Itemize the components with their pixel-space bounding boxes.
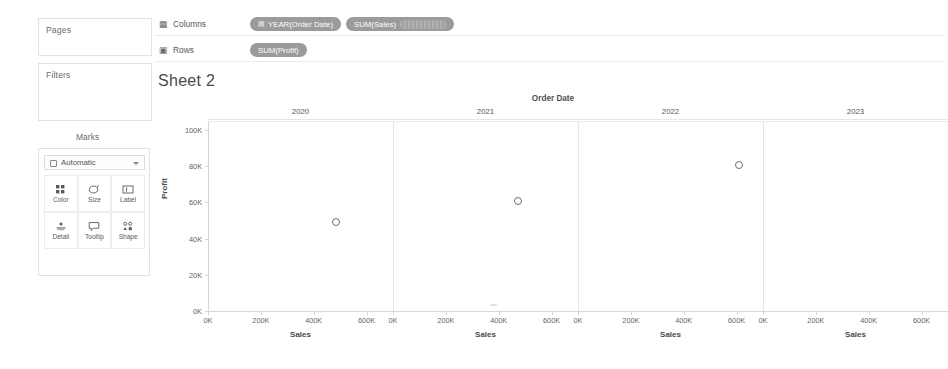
data-point[interactable] xyxy=(332,218,340,226)
sheet-title[interactable]: Sheet 2 xyxy=(158,72,215,90)
tooltip-icon xyxy=(88,220,100,233)
y-tick-label: 100K xyxy=(185,126,202,135)
y-tick-label: 80K xyxy=(189,162,202,171)
columns-pill-row: ▤ YEAR(Order Date) SUM(Sales) xyxy=(250,17,454,31)
pill-sum-profit-label: SUM(Profit) xyxy=(258,46,299,55)
x-tick-mark xyxy=(552,312,553,315)
panel-2020[interactable] xyxy=(209,122,394,311)
x-tick-label: 200K xyxy=(252,316,269,325)
panel-header-2022[interactable]: 2022 xyxy=(578,107,763,120)
chart-panels xyxy=(208,121,948,311)
x-tick-mark xyxy=(261,312,262,315)
rows-pill-row: SUM(Profit) xyxy=(250,43,307,57)
panel-2021[interactable] xyxy=(394,122,579,311)
marks-tooltip-button[interactable]: Tooltip xyxy=(78,212,112,249)
columns-shelf-label: Columns xyxy=(173,19,206,29)
pill-sum-profit[interactable]: SUM(Profit) xyxy=(250,43,307,57)
marks-shape-button[interactable]: Shape xyxy=(111,212,145,249)
columns-icon: ▦ xyxy=(159,20,168,29)
filters-card[interactable]: Filters xyxy=(38,63,152,121)
marks-color-button[interactable]: Color xyxy=(44,175,78,212)
rows-shelf[interactable]: ▣ Rows SUM(Profit) xyxy=(155,40,945,62)
x-axis-title: Sales xyxy=(208,330,393,339)
size-icon xyxy=(88,183,100,196)
marks-tooltip-label: Tooltip xyxy=(85,234,104,241)
x-tick-label: 600K xyxy=(913,316,930,325)
panel-headers: 2020202120222023 xyxy=(208,107,948,120)
x-tick-label: 400K xyxy=(675,316,692,325)
chevron-down-icon[interactable] xyxy=(133,162,139,165)
x-tick-label: 200K xyxy=(807,316,824,325)
x-axis-2023[interactable]: 0K200K400K600KSales xyxy=(763,311,948,352)
y-tick-label: 60K xyxy=(189,198,202,207)
pill-sum-sales[interactable]: SUM(Sales) xyxy=(346,17,454,31)
x-tick-label: 0K xyxy=(759,316,768,325)
x-tick-mark xyxy=(816,312,817,315)
x-tick-mark xyxy=(684,312,685,315)
marks-size-label: Size xyxy=(88,197,101,204)
columns-shelf[interactable]: ▦ Columns ▤ YEAR(Order Date) SUM(Sales) xyxy=(155,14,945,36)
x-tick-label: 400K xyxy=(305,316,322,325)
marks-size-button[interactable]: Size xyxy=(78,175,112,212)
panel-2023[interactable] xyxy=(764,122,948,311)
x-tick-mark xyxy=(578,312,579,315)
y-tick-label: 0K xyxy=(193,307,202,316)
marks-color-label: Color xyxy=(53,197,69,204)
x-tick-label: 600K xyxy=(543,316,560,325)
x-tick-mark xyxy=(922,312,923,315)
x-tick-label: 400K xyxy=(860,316,877,325)
x-tick-mark xyxy=(737,312,738,315)
pages-card-title: Pages xyxy=(46,25,71,35)
x-tick-label: 0K xyxy=(389,316,398,325)
x-tick-mark xyxy=(631,312,632,315)
x-axis-2021[interactable]: 0K200K400K600KSales xyxy=(393,311,578,352)
panel-header-2021[interactable]: 2021 xyxy=(393,107,578,120)
x-tick-label: 600K xyxy=(358,316,375,325)
y-tick-label: 20K xyxy=(189,270,202,279)
x-tick-mark xyxy=(314,312,315,315)
x-tick-label: 200K xyxy=(437,316,454,325)
pill-sum-sales-label: SUM(Sales) xyxy=(354,20,396,29)
tableau-worksheet: Pages Filters Marks Automatic xyxy=(0,0,948,369)
x-axis-2022[interactable]: 0K200K400K600KSales xyxy=(578,311,763,352)
color-icon xyxy=(55,183,66,196)
marks-card-title: Marks xyxy=(76,132,99,142)
panel-2022[interactable] xyxy=(579,122,764,311)
marks-buttons-grid: Color Size xyxy=(44,175,145,249)
pages-card[interactable]: Pages xyxy=(38,18,152,56)
chart-area: Order Date 2020202120222023 Profit 100K8… xyxy=(158,94,948,352)
panel-header-2020[interactable]: 2020 xyxy=(208,107,393,120)
calendar-icon: ▤ xyxy=(258,20,265,28)
data-point[interactable] xyxy=(735,161,743,169)
x-tick-label: 400K xyxy=(490,316,507,325)
marks-shape-label: Shape xyxy=(119,234,138,241)
detail-icon xyxy=(55,220,67,233)
pill-year-order-date[interactable]: ▤ YEAR(Order Date) xyxy=(250,17,341,31)
x-tick-mark xyxy=(763,312,764,315)
left-side-bar: Pages Filters Marks Automatic xyxy=(38,8,152,360)
marks-card: Automatic Color xyxy=(38,148,150,276)
x-tick-mark xyxy=(393,312,394,315)
y-axis[interactable]: Profit 100K80K60K40K20K0K xyxy=(158,121,208,311)
x-tick-label: 0K xyxy=(204,316,213,325)
x-axis-2020[interactable]: 0K200K400K600KSales xyxy=(208,311,393,352)
x-tick-mark xyxy=(869,312,870,315)
label-icon xyxy=(122,183,134,196)
panel-header-2023[interactable]: 2023 xyxy=(763,107,948,120)
y-axis-title: Profit xyxy=(160,178,169,199)
plot-region: Profit 100K80K60K40K20K0K xyxy=(158,121,948,311)
marks-label-button[interactable]: Label xyxy=(111,175,145,212)
y-tick-label: 40K xyxy=(189,234,202,243)
mark-type-value: Automatic xyxy=(61,158,96,167)
x-axis-title: Sales xyxy=(578,330,763,339)
pill-year-order-date-label: YEAR(Order Date) xyxy=(268,20,333,29)
data-point[interactable] xyxy=(514,197,522,205)
x-tick-mark xyxy=(446,312,447,315)
marks-detail-button[interactable]: Detail xyxy=(44,212,78,249)
x-axes: 0K200K400K600KSales0K200K400K600KSales0K… xyxy=(208,311,948,352)
filters-card-title: Filters xyxy=(46,70,71,80)
x-tick-mark xyxy=(499,312,500,315)
rows-icon: ▣ xyxy=(159,46,168,55)
x-tick-mark xyxy=(367,312,368,315)
mark-type-dropdown[interactable]: Automatic xyxy=(44,155,145,170)
